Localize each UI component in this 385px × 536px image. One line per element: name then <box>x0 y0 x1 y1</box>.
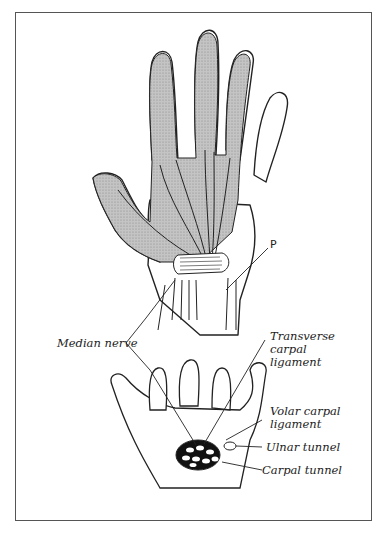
label-volar-carpal-ligament: Volar carpal ligament <box>270 405 341 431</box>
label-p: P <box>270 238 277 251</box>
label-transverse-carpal-ligament: Transverse carpal ligament <box>270 330 335 369</box>
median-nerve-territory <box>93 33 250 262</box>
label-ulnar-tunnel: Ulnar tunnel <box>266 441 340 454</box>
label-carpal-tunnel: Carpal tunnel <box>262 464 342 477</box>
label-line: ligament <box>270 356 335 369</box>
label-median-nerve: Median nerve <box>57 337 138 350</box>
hand-illustration <box>0 0 385 536</box>
wrist-ligament <box>174 253 229 274</box>
label-line: ligament <box>270 418 341 431</box>
